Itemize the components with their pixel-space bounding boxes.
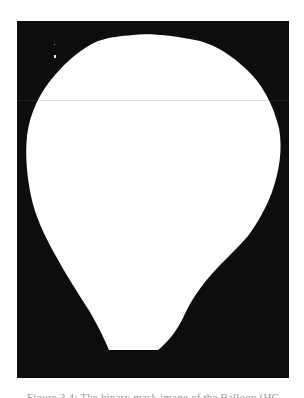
noise-speck [54,55,56,58]
balloon-mask-image [0,0,304,398]
figure: Figure 3.4: The binary mask image of the… [0,0,304,398]
figure-caption: Figure 3.4: The binary mask image of the… [27,390,297,398]
balloon-silhouette [26,34,280,350]
noise-speck [54,44,55,45]
